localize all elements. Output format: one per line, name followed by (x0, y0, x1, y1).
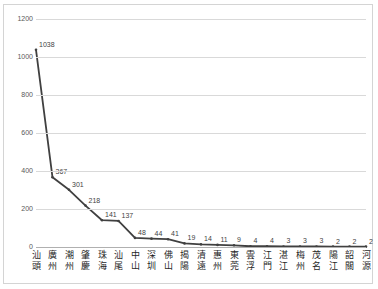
gridline (36, 209, 366, 210)
data-label: 3 (303, 237, 307, 245)
x-tick-label: 清遠 (193, 250, 209, 272)
y-tick-label: 800 (7, 91, 33, 99)
gridline (36, 171, 366, 172)
x-axis-line (36, 247, 366, 248)
y-tick-label: 1000 (7, 53, 33, 61)
x-tick-label: 湛江 (276, 250, 292, 272)
y-axis: 020040060080010001200 (4, 19, 33, 247)
x-axis: 汕頭廣州潮州肇慶珠海汕尾中山深圳佛山揭陽清遠惠州東莞雲浮江門湛江梅州茂名陽江韶關… (36, 250, 366, 284)
data-label: 1038 (39, 41, 55, 49)
y-tick-label: 1200 (7, 15, 33, 23)
x-tick-label: 潮州 (61, 250, 77, 272)
y-tick-label: 600 (7, 129, 33, 137)
data-label: 2 (353, 238, 357, 246)
y-tick-label: 400 (7, 167, 33, 175)
data-label: 9 (237, 236, 241, 244)
x-tick-label: 中山 (127, 250, 143, 272)
x-tick-label: 河源 (358, 250, 374, 272)
gridline (36, 133, 366, 134)
data-label: 141 (105, 211, 117, 219)
data-label: 3 (287, 237, 291, 245)
x-tick-label: 肇慶 (78, 250, 94, 272)
gridline (36, 95, 366, 96)
data-label: 4 (254, 237, 258, 245)
x-tick-label: 茂名 (309, 250, 325, 272)
data-label: 4 (270, 237, 274, 245)
gridline (36, 19, 366, 20)
data-label: 2 (369, 238, 373, 246)
gridline (36, 57, 366, 58)
chart-frame: 020040060080010001200 103836730121814113… (3, 4, 373, 284)
data-label: 2 (336, 238, 340, 246)
data-label: 44 (155, 230, 163, 238)
x-tick-label: 汕頭 (28, 250, 44, 272)
x-tick-label: 佛山 (160, 250, 176, 272)
x-tick-label: 深圳 (144, 250, 160, 272)
x-tick-label: 珠海 (94, 250, 110, 272)
data-label: 19 (188, 234, 196, 242)
x-tick-label: 陽江 (325, 250, 341, 272)
x-tick-label: 雲浮 (243, 250, 259, 272)
data-label: 48 (138, 229, 146, 237)
x-tick-label: 汕尾 (111, 250, 127, 272)
y-tick-label: 200 (7, 205, 33, 213)
x-tick-label: 梅州 (292, 250, 308, 272)
x-tick-label: 惠州 (210, 250, 226, 272)
x-tick-label: 韶關 (342, 250, 358, 272)
x-tick-label: 揭陽 (177, 250, 193, 272)
x-tick-label: 東莞 (226, 250, 242, 272)
data-label: 14 (204, 235, 212, 243)
data-label: 137 (122, 212, 134, 220)
x-tick-label: 江門 (259, 250, 275, 272)
data-label: 41 (171, 230, 179, 238)
data-label: 218 (89, 197, 101, 205)
plot-area: 1038367301218141137484441191411944333222 (36, 19, 366, 247)
data-label: 11 (221, 236, 228, 244)
data-label: 367 (56, 168, 68, 176)
data-label: 3 (320, 237, 324, 245)
x-tick-label: 廣州 (45, 250, 61, 272)
data-label: 301 (72, 181, 84, 189)
